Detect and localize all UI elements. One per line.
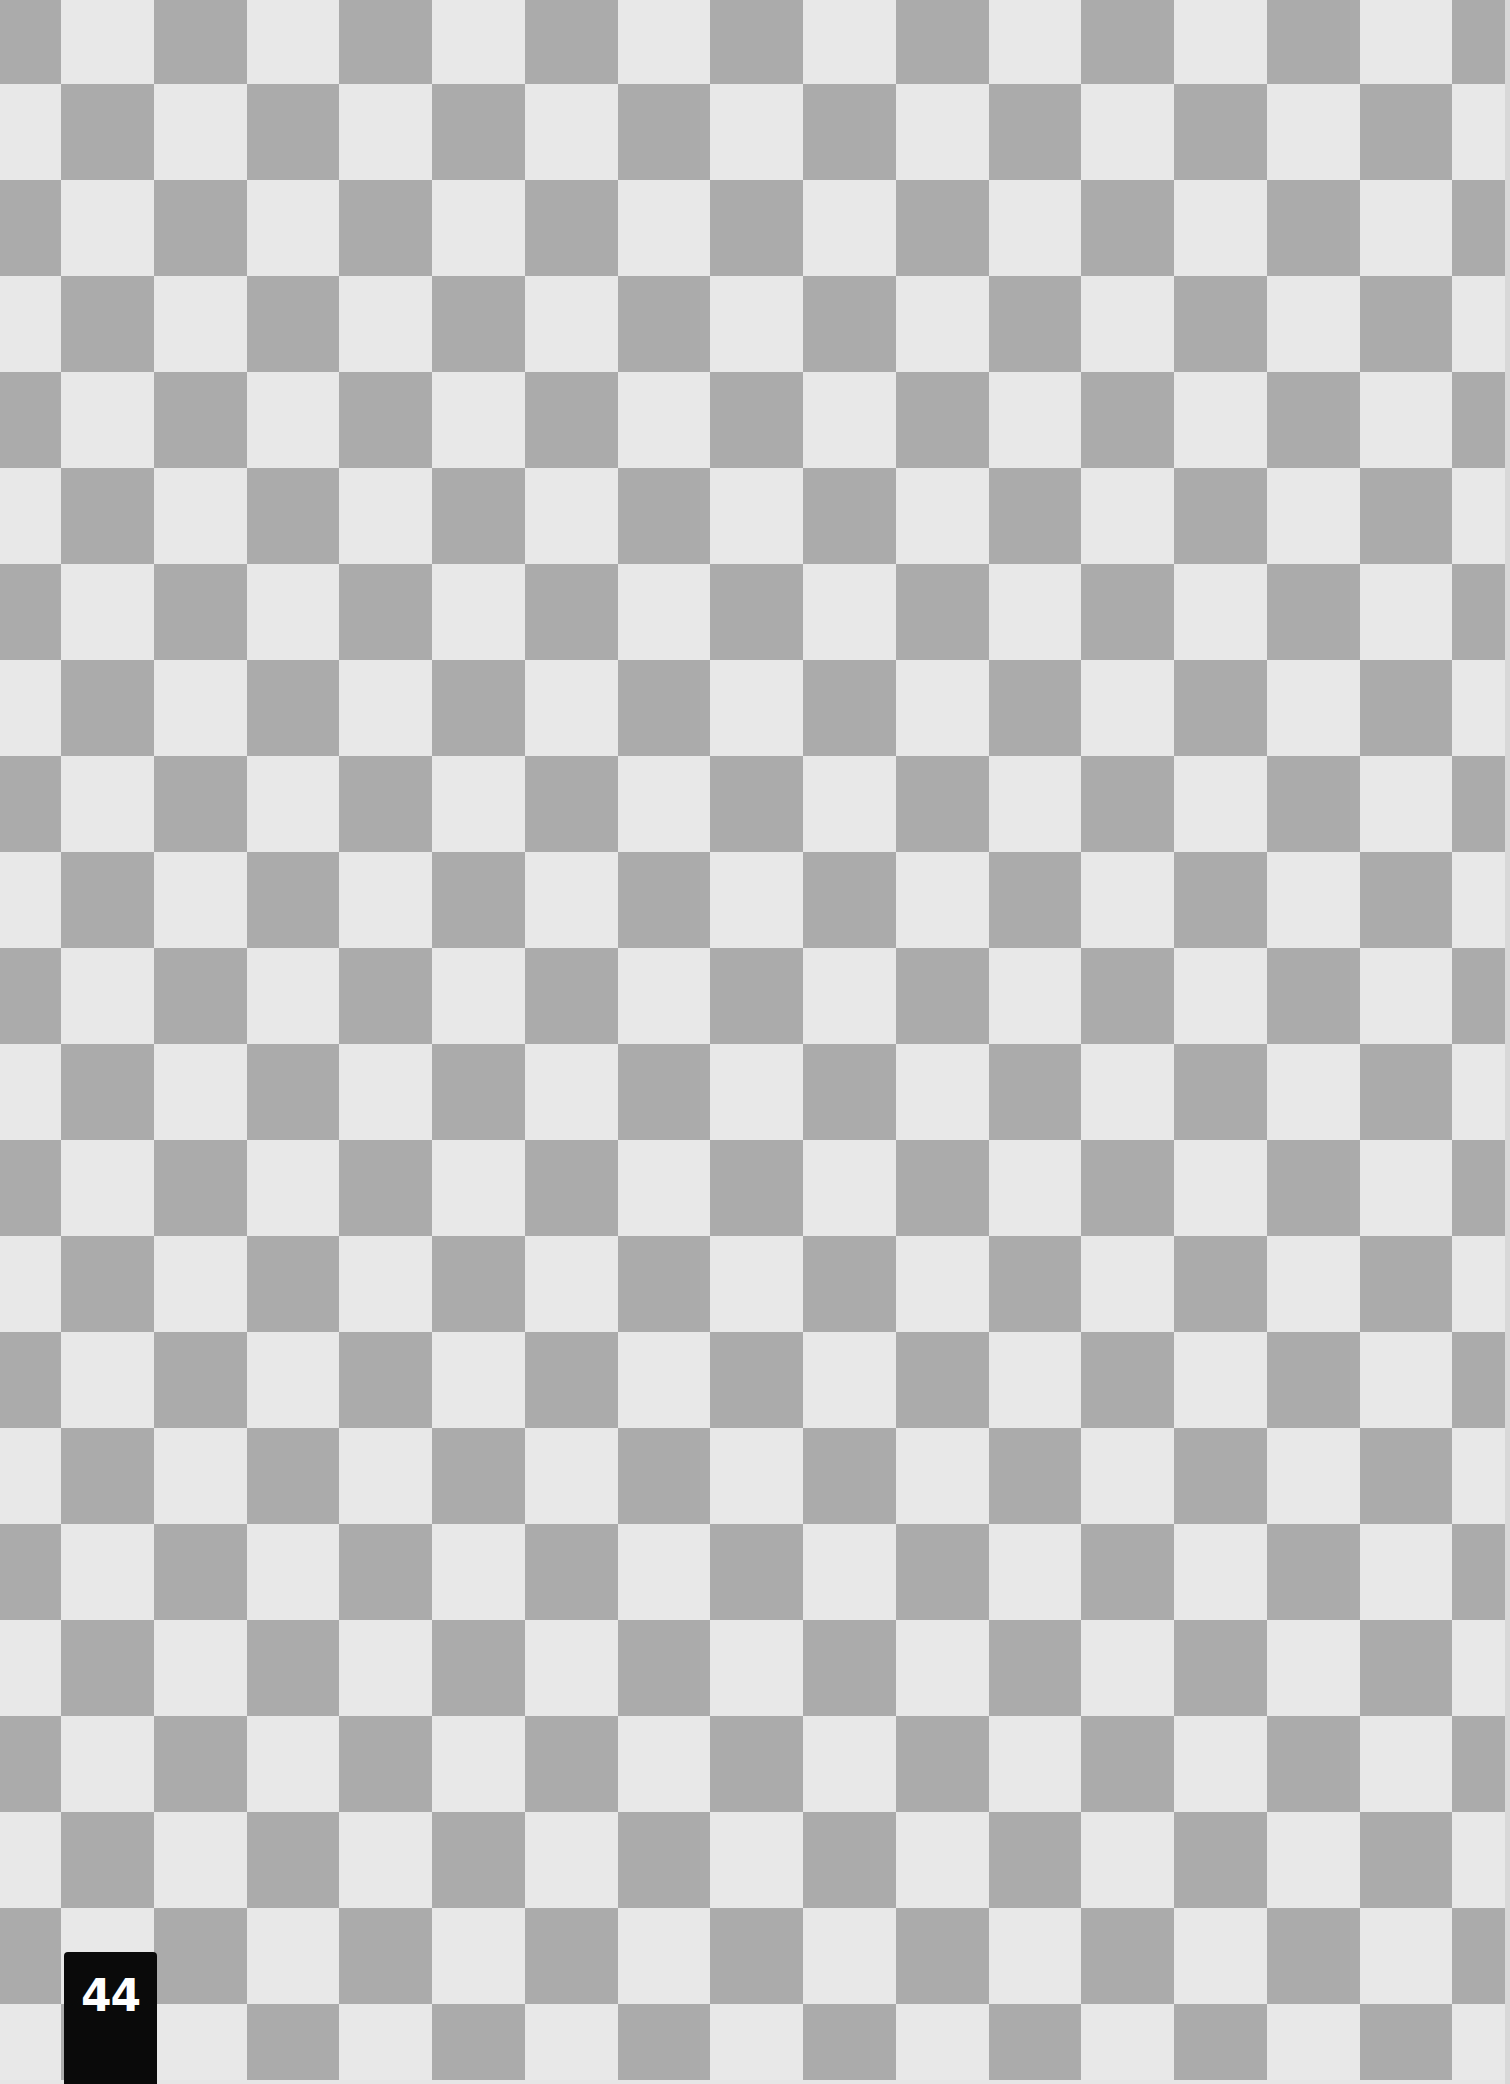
checker-square	[1360, 180, 1452, 276]
checker-square	[1452, 1236, 1505, 1332]
checker-square	[61, 1236, 154, 1332]
checker-square	[710, 276, 803, 372]
checker-square	[61, 0, 154, 84]
checker-square	[1267, 1908, 1360, 2004]
checker-square	[1174, 468, 1267, 564]
checker-square	[339, 180, 432, 276]
checker-square	[803, 852, 896, 948]
checker-square	[1452, 1716, 1505, 1812]
checker-square	[989, 756, 1081, 852]
checker-square	[803, 84, 896, 180]
checker-square	[1267, 1332, 1360, 1428]
checker-square	[1174, 564, 1267, 660]
checker-square	[61, 852, 154, 948]
checker-square	[618, 1428, 710, 1524]
checker-square	[525, 1908, 618, 2004]
checker-square	[61, 1044, 154, 1140]
checker-square	[896, 1236, 989, 1332]
checker-square	[710, 180, 803, 276]
checker-square	[803, 0, 896, 84]
checker-square	[618, 84, 710, 180]
checker-square	[339, 276, 432, 372]
checker-square	[1174, 2004, 1267, 2080]
checker-square	[1452, 84, 1505, 180]
checker-square	[989, 852, 1081, 948]
checker-square	[1452, 756, 1505, 852]
checker-square	[803, 276, 896, 372]
checker-square	[432, 468, 525, 564]
checker-square	[1174, 0, 1267, 84]
checker-square	[1452, 1428, 1505, 1524]
checker-square	[1360, 1332, 1452, 1428]
checker-square	[432, 564, 525, 660]
checker-square	[896, 468, 989, 564]
checker-square	[618, 1140, 710, 1236]
checker-square	[989, 1332, 1081, 1428]
checker-square	[247, 1428, 339, 1524]
checker-square	[525, 180, 618, 276]
checker-square	[432, 84, 525, 180]
checker-square	[710, 1716, 803, 1812]
checker-square	[1267, 756, 1360, 852]
checker-square	[339, 1812, 432, 1908]
checker-square	[989, 1620, 1081, 1716]
checker-square	[525, 2004, 618, 2080]
checker-square	[525, 0, 618, 84]
checker-square	[1174, 1140, 1267, 1236]
checker-square	[1267, 468, 1360, 564]
checker-square	[1081, 756, 1174, 852]
checker-square	[989, 1044, 1081, 1140]
checker-square	[432, 1236, 525, 1332]
checker-square	[1267, 1140, 1360, 1236]
checker-square	[61, 1428, 154, 1524]
checker-square	[247, 948, 339, 1044]
checker-square	[432, 276, 525, 372]
checker-square	[1174, 1428, 1267, 1524]
checker-square	[339, 1140, 432, 1236]
checker-square	[1360, 1044, 1452, 1140]
checker-square	[710, 468, 803, 564]
checker-square	[710, 1044, 803, 1140]
checker-square	[154, 2004, 247, 2080]
checker-square	[1174, 948, 1267, 1044]
checker-square	[154, 852, 247, 948]
checker-square	[0, 1524, 61, 1620]
checker-square	[0, 660, 61, 756]
checker-square	[1081, 1332, 1174, 1428]
checker-square	[1081, 852, 1174, 948]
checker-square	[154, 372, 247, 468]
checker-square	[0, 1716, 61, 1812]
checker-square	[1174, 1812, 1267, 1908]
checker-square	[432, 180, 525, 276]
checker-square	[1081, 2004, 1174, 2080]
checker-square	[710, 756, 803, 852]
checker-square	[1174, 276, 1267, 372]
checker-square	[432, 1140, 525, 1236]
checker-square	[896, 1620, 989, 1716]
checker-square	[525, 372, 618, 468]
checker-square	[803, 180, 896, 276]
checker-square	[618, 372, 710, 468]
checker-square	[0, 1236, 61, 1332]
checker-square	[896, 0, 989, 84]
checker-square	[896, 1812, 989, 1908]
checker-square	[1452, 1140, 1505, 1236]
checker-square	[525, 276, 618, 372]
checker-square	[1081, 84, 1174, 180]
checker-square	[0, 1428, 61, 1524]
checker-square	[154, 1716, 247, 1812]
checker-square	[896, 948, 989, 1044]
checker-square	[1360, 84, 1452, 180]
checker-square	[803, 1908, 896, 2004]
checker-square	[61, 1716, 154, 1812]
checker-square	[896, 1716, 989, 1812]
checker-square	[154, 1620, 247, 1716]
checker-square	[710, 1812, 803, 1908]
checker-square	[432, 1332, 525, 1428]
checker-square	[710, 1236, 803, 1332]
checker-square	[247, 2004, 339, 2080]
checker-square	[1452, 1620, 1505, 1716]
checker-square	[710, 84, 803, 180]
checker-square	[0, 468, 61, 564]
checker-square	[1081, 1140, 1174, 1236]
